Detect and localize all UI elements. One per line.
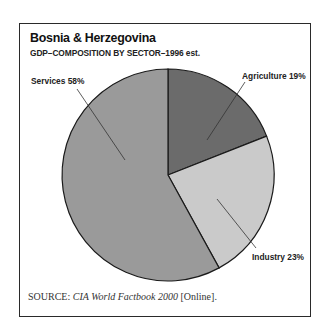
source-suffix: [Online]. <box>181 291 217 302</box>
source-note: SOURCE: CIA World Factbook 2000 [Online]… <box>28 291 217 302</box>
label-services: Services 58% <box>31 75 84 86</box>
source-work: CIA World Factbook 2000 <box>73 291 178 302</box>
pie-chart <box>0 0 331 331</box>
label-industry: Industry 23% <box>252 251 304 262</box>
source-prefix: SOURCE: <box>28 291 70 302</box>
label-agriculture: Agriculture 19% <box>242 70 306 81</box>
